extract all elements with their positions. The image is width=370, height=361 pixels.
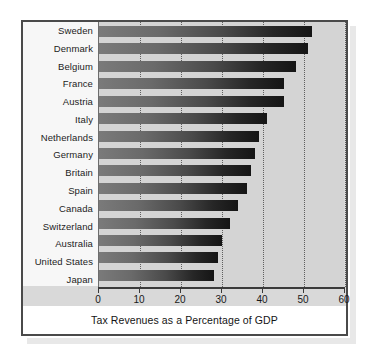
x-tick [262, 287, 263, 293]
category-axis: SwedenDenmarkBelgiumFranceAustriaItalyNe… [23, 24, 96, 286]
category-label: Italy [23, 114, 96, 125]
x-tick [303, 287, 304, 293]
x-tick-label: 30 [215, 294, 226, 305]
bar [99, 270, 214, 281]
bar-row [99, 26, 344, 37]
axis-title-band: Tax Revenues as a Percentage of GDP [23, 306, 346, 334]
x-tick [180, 287, 181, 293]
bar [99, 148, 255, 159]
bar [99, 200, 238, 211]
bar [99, 43, 308, 54]
category-label-band: SwedenDenmarkBelgiumFranceAustriaItalyNe… [23, 22, 98, 286]
bar-row [99, 183, 344, 194]
bar-row [99, 113, 344, 124]
x-tick-label: 20 [174, 294, 185, 305]
category-label: Australia [23, 238, 96, 249]
category-label: Denmark [23, 43, 96, 54]
x-tick [221, 287, 222, 293]
bar [99, 61, 296, 72]
category-label: Britain [23, 167, 96, 178]
plot-area [98, 22, 344, 287]
bar-row [99, 252, 344, 263]
x-tick-label: 0 [95, 294, 101, 305]
category-label: Japan [23, 274, 96, 285]
bar-row [99, 235, 344, 246]
bar [99, 78, 284, 89]
bar [99, 218, 230, 229]
category-label: United States [23, 256, 96, 267]
category-label: France [23, 78, 96, 89]
chart-body: SwedenDenmarkBelgiumFranceAustriaItalyNe… [23, 22, 346, 306]
bar-row [99, 148, 344, 159]
bar [99, 96, 284, 107]
bar-row [99, 61, 344, 72]
x-tick [344, 287, 345, 293]
category-label: Germany [23, 149, 96, 160]
x-tick [98, 287, 99, 293]
figure-shadow-right [350, 26, 356, 340]
category-label: Canada [23, 203, 96, 214]
bar-row [99, 218, 344, 229]
x-tick-label: 10 [133, 294, 144, 305]
bar-series [99, 22, 344, 287]
chart-figure: SwedenDenmarkBelgiumFranceAustriaItalyNe… [21, 20, 348, 336]
bar-row [99, 270, 344, 281]
figure-shadow-bottom [27, 338, 356, 344]
x-axis-title: Tax Revenues as a Percentage of GDP [91, 314, 278, 326]
bar-row [99, 96, 344, 107]
bar [99, 252, 218, 263]
bar-row [99, 43, 344, 54]
bar [99, 235, 222, 246]
bar [99, 183, 247, 194]
x-tick-label: 60 [338, 294, 349, 305]
category-label: Austria [23, 96, 96, 107]
bar-row [99, 131, 344, 142]
category-label: Switzerland [23, 221, 96, 232]
category-label: Netherlands [23, 132, 96, 143]
gridline [345, 22, 346, 287]
bar [99, 165, 251, 176]
category-label: Spain [23, 185, 96, 196]
bar [99, 113, 267, 124]
bar-row [99, 165, 344, 176]
x-tick-label: 40 [256, 294, 267, 305]
category-label: Belgium [23, 61, 96, 72]
x-tick [139, 287, 140, 293]
bar-row [99, 78, 344, 89]
bar [99, 131, 259, 142]
category-label: Sweden [23, 25, 96, 36]
x-tick-label: 50 [297, 294, 308, 305]
bar [99, 26, 312, 37]
bar-row [99, 200, 344, 211]
